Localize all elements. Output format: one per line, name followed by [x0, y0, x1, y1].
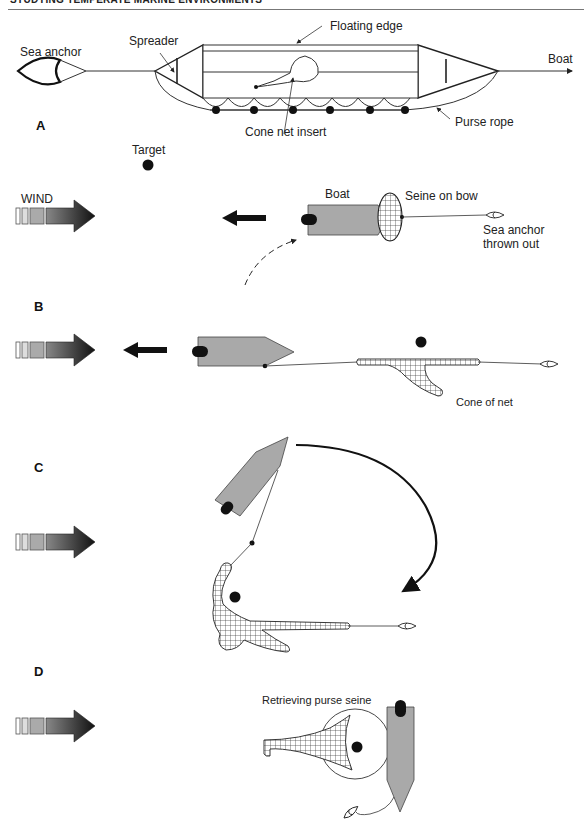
heading-arrow-icon: [222, 210, 266, 226]
purse-seine-diagram: Sea anchor Spreader Floating edge Boat P…: [0, 0, 584, 834]
label-boat-top: Boat: [548, 52, 573, 66]
sea-anchor-small-icon: [540, 361, 558, 367]
sea-anchor-small-icon: [486, 212, 504, 218]
sea-anchor-small-icon: [398, 623, 416, 629]
wind-arrow-icon: [16, 526, 95, 558]
label-sea-anchor-thrown-2: thrown out: [483, 237, 540, 251]
label-cone-of-net: Cone of net: [456, 396, 513, 408]
sea-anchor-small-icon: [342, 804, 360, 820]
panel-letter-b: B: [34, 299, 43, 314]
panel-letter-d: D: [34, 664, 43, 679]
target-fish-icon: [143, 160, 154, 171]
label-retrieving-purse-seine: Retrieving purse seine: [262, 694, 371, 706]
panel-d: D Retrieving purse seine: [16, 664, 414, 820]
seine-net-icon: [357, 359, 481, 396]
label-spreader: Spreader: [129, 34, 178, 48]
panel-letter-c: C: [34, 460, 44, 475]
wind-arrow-icon: [16, 334, 95, 366]
label-wind: WIND: [21, 192, 53, 206]
approach-path: [245, 240, 296, 285]
target-fish-icon: [416, 337, 427, 348]
seine-net-icon: [378, 193, 402, 241]
boat-cabin-icon: [301, 214, 317, 225]
label-target: Target: [132, 143, 166, 157]
boat-icon: [198, 337, 294, 366]
sea-anchor-icon: [18, 58, 86, 85]
seine-net-icon: [264, 715, 352, 770]
label-cone-net-insert: Cone net insert: [245, 125, 327, 139]
label-sea-anchor-thrown-1: Sea anchor: [483, 223, 544, 237]
panel-a: A Target WIND Boat Seine on bow Sea anch…: [16, 118, 544, 285]
seine-net-icon: [213, 563, 350, 652]
label-boat-a: Boat: [325, 187, 350, 201]
boat-icon: [387, 707, 414, 812]
target-fish-icon: [230, 592, 241, 603]
wind-arrow-icon: [16, 710, 95, 742]
label-purse-rope: Purse rope: [455, 115, 514, 129]
panel-b: B Cone of net: [16, 299, 558, 408]
boat-icon: [308, 205, 382, 235]
seine-net-schematic: Sea anchor Spreader Floating edge Boat P…: [18, 19, 573, 139]
boat-cabin-icon: [395, 700, 406, 717]
panel-c: C: [16, 437, 436, 652]
heading-arrow-icon: [123, 342, 167, 358]
circling-path-arrow: [296, 445, 436, 590]
target-fish-icon: [352, 742, 363, 753]
panel-letter-a: A: [36, 118, 46, 133]
label-floating-edge: Floating edge: [330, 19, 403, 33]
label-seine-on-bow: Seine on bow: [405, 189, 478, 203]
label-sea-anchor: Sea anchor: [20, 45, 81, 59]
boat-cabin-icon: [192, 346, 208, 357]
